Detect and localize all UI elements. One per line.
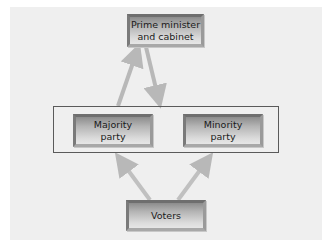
node-label: Prime minister and cabinet	[131, 19, 200, 43]
node-label: Voters	[151, 210, 181, 222]
node-minority-party: Minority party	[183, 114, 263, 147]
node-label: Minority party	[204, 119, 243, 143]
node-voters: Voters	[126, 200, 206, 231]
node-prime-minister-and-cabinet: Prime minister and cabinet	[127, 14, 204, 47]
node-majority-party: Majority party	[73, 114, 153, 147]
node-label: Majority party	[94, 119, 132, 143]
